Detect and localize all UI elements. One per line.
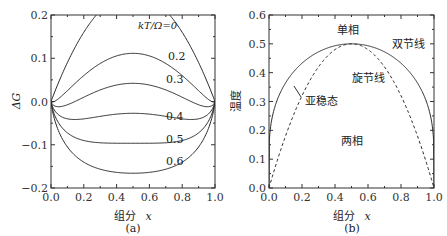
y-tick-label: 0.0 xyxy=(249,182,267,195)
chart-b-ylabel: 温度 xyxy=(229,90,243,112)
y-tick-label: 0.2 xyxy=(249,124,267,137)
binodal-curve xyxy=(269,44,434,188)
x-tick-label: 0.8 xyxy=(173,191,191,204)
chart-b: 0.00.20.40.60.81.00.60.50.40.30.20.10.0 … xyxy=(229,9,443,235)
y-tick-label: 0.6 xyxy=(249,9,267,22)
curve-0.3 xyxy=(51,83,215,106)
x-tick-label: 0.4 xyxy=(108,191,126,204)
curve-label-0.4: 0.4 xyxy=(166,110,184,123)
y-tick-label: −0.2 xyxy=(21,182,48,195)
curve-0.4 xyxy=(51,102,215,120)
annotation-metastable: 亚稳态 xyxy=(305,94,338,108)
y-tick-label: 0.3 xyxy=(249,96,267,109)
y-tick-label: 0.1 xyxy=(249,153,267,166)
curve-0.5 xyxy=(51,102,215,144)
curve-label-0.2: 0.2 xyxy=(168,50,186,63)
x-tick-label: 0.4 xyxy=(326,191,344,204)
y-tick-label: 0.5 xyxy=(249,38,267,51)
curve-0.2 xyxy=(51,53,215,102)
annotation-spinodal: 旋节线 xyxy=(352,71,385,85)
metastable-pointer xyxy=(294,86,301,97)
x-tick-label: 0.6 xyxy=(141,191,159,204)
x-tick-label: 0.2 xyxy=(75,191,93,204)
annotation-single-phase: 单相 xyxy=(337,24,359,37)
y-tick-label: 0.2 xyxy=(31,9,49,22)
chart-a-panel-label: (a) xyxy=(125,222,140,235)
chart-a-curves xyxy=(51,0,215,173)
chart-a-legend-title: kT/Ω=0 xyxy=(138,20,178,31)
chart-a-ylabel: ΔG xyxy=(10,92,23,110)
annotation-binodal: 双节线 xyxy=(392,37,425,51)
figure: 0.00.20.40.60.81.00.20.10.0−0.1−0.2 ΔG 组… xyxy=(0,0,447,236)
annotation-two-phase: 两相 xyxy=(341,135,363,148)
y-tick-label: 0.0 xyxy=(31,96,49,109)
x-tick-label: 1.0 xyxy=(206,191,224,204)
y-tick-label: 0.1 xyxy=(31,52,49,65)
x-tick-label: 0.8 xyxy=(392,191,410,204)
curve-label-0.6: 0.6 xyxy=(166,155,184,168)
x-tick-label: 1.0 xyxy=(425,191,443,204)
spinodal-curve xyxy=(269,44,434,188)
y-tick-label: 0.4 xyxy=(249,67,267,80)
chart-a: 0.00.20.40.60.81.00.20.10.0−0.1−0.2 ΔG 组… xyxy=(10,0,224,235)
chart-b-panel-label: (b) xyxy=(344,222,360,235)
curve-label-0.3: 0.3 xyxy=(166,73,184,86)
curve-label-0.5: 0.5 xyxy=(166,133,184,146)
chart-b-curves xyxy=(269,44,434,188)
y-tick-label: −0.1 xyxy=(21,139,48,152)
x-tick-label: 0.2 xyxy=(293,191,311,204)
x-tick-label: 0.6 xyxy=(359,191,377,204)
